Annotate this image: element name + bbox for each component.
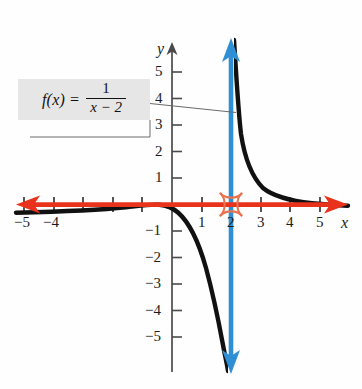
x-tick-label-neg4: −4: [43, 215, 59, 230]
y-tick-label-3: 3: [155, 117, 163, 132]
y-axis-label: y: [157, 41, 164, 57]
y-tick-label-neg3: −3: [145, 276, 161, 291]
plot-canvas: [0, 0, 362, 389]
graph-figure: 5 4 3 2 1 −1 −2 −3 −4 −5 −5 −4 1 2 3 4 5…: [0, 0, 362, 389]
y-tick-label-neg2: −2: [145, 250, 161, 265]
y-tick-label-5: 5: [155, 64, 163, 79]
x-tick-label-5: 5: [316, 215, 324, 230]
y-tick-label-2: 2: [155, 144, 163, 159]
x-tick-label-2: 2: [227, 215, 235, 230]
function-label-numerator: 1: [98, 81, 114, 97]
x-tick-label-3: 3: [257, 215, 265, 230]
x-tick-label-4: 4: [286, 215, 294, 230]
y-tick-label-1: 1: [155, 170, 163, 185]
function-label-box: f(x) = 1 x − 2: [18, 79, 150, 120]
curve-right-branch: [234, 40, 348, 206]
function-label-fraction: 1 x − 2: [86, 81, 126, 116]
y-tick-label-neg5: −5: [145, 329, 161, 344]
function-label-denominator: x − 2: [87, 100, 125, 116]
function-label-lhs: f(x): [42, 91, 65, 109]
function-label-equals: =: [70, 91, 79, 109]
x-axis-label: x: [341, 215, 348, 231]
function-label-content: f(x) = 1 x − 2: [18, 79, 150, 120]
x-tick-label-neg5: −5: [14, 215, 30, 230]
y-tick-label-neg4: −4: [145, 303, 161, 318]
x-tick-label-1: 1: [198, 215, 206, 230]
y-tick-label-4: 4: [155, 91, 163, 106]
y-tick-label-neg1: −1: [145, 223, 161, 238]
